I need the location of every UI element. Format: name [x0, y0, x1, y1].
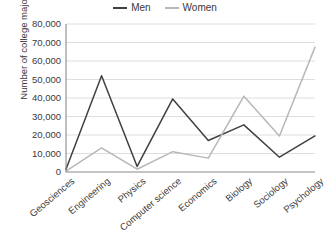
legend-swatch-women-icon	[165, 7, 179, 9]
y-axis-tick-label: 20,000	[32, 130, 61, 140]
legend-label-men: Men	[131, 3, 150, 13]
x-axis-tick-label[interactable]: Biology	[224, 176, 254, 203]
line-chart: Men Women Number of college majors 010,0…	[0, 0, 330, 252]
y-axis-tick-label: 40,000	[32, 93, 61, 103]
x-axis-tick-label[interactable]: Physics	[116, 176, 147, 204]
series-line-women	[66, 47, 315, 171]
plot-svg	[66, 24, 315, 172]
y-axis-tick-label: 0	[56, 167, 61, 177]
x-axis-tick-label[interactable]: Economics	[177, 176, 219, 213]
legend-swatch-men-icon	[113, 7, 127, 9]
y-axis-tick-label: 60,000	[32, 56, 61, 66]
y-axis-tick-label: 70,000	[32, 38, 61, 48]
plot-area	[66, 24, 315, 172]
legend-label-women: Women	[183, 3, 217, 13]
legend-item-women[interactable]: Women	[165, 3, 217, 13]
y-axis-tick-label: 80,000	[32, 19, 61, 29]
series-lines	[66, 47, 315, 171]
y-axis-tick-label: 10,000	[32, 149, 61, 159]
y-axis-tick-label: 30,000	[32, 112, 61, 122]
legend-item-men[interactable]: Men	[113, 3, 150, 13]
y-axis-tick-label: 50,000	[32, 75, 61, 85]
